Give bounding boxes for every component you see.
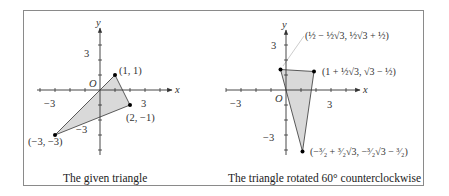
right-plot: y x O 3 −3 −3 3 (½ − ½√3, ½√3 + ½) (1 + …: [226, 19, 421, 185]
point-label-neg3-neg3: (−3, −3): [28, 136, 63, 148]
point-rotated-c: [301, 150, 305, 154]
y-tick-label-neg3: −3: [263, 132, 274, 143]
left-plot: y x O 3 −3 −3 3 (1, 1) (2, −1) (−3, −3) …: [28, 17, 180, 185]
y-tick-label-neg3: −3: [76, 124, 87, 135]
x-tick-label-neg3: −3: [44, 98, 55, 109]
x-axis-label: x: [362, 84, 368, 95]
point-rotated-a: [279, 68, 283, 72]
x-axis-label: x: [174, 84, 180, 95]
origin-label: O: [275, 93, 283, 104]
rotated-triangle: [281, 70, 315, 152]
point-label-2-neg1: (2, −1): [126, 112, 155, 124]
x-tick-label-neg3: −3: [230, 98, 241, 109]
point-rotated-b: [312, 70, 316, 74]
point-2-neg1: [128, 103, 132, 107]
left-caption: The given triangle: [63, 172, 147, 185]
x-tick-label-3: 3: [141, 98, 146, 109]
y-axis-label: y: [281, 19, 287, 30]
y-tick-label-3: 3: [84, 48, 89, 59]
point-1-1: [113, 73, 117, 77]
point-label-rotated-a: (½ − ½√3, ½√3 + ½): [305, 30, 389, 42]
y-axis-label: y: [95, 17, 101, 28]
right-caption: The triangle rotated 60° counterclockwis…: [228, 172, 421, 185]
point-label-rotated-b: (1 + ½√3, √3 − ½): [322, 66, 396, 78]
origin-label: O: [89, 78, 97, 89]
y-tick-label-3: 3: [271, 40, 276, 51]
point-label-rotated-c: (−³⁄₂ + ³⁄₂√3, −³⁄₂√3 − ³⁄₂): [310, 146, 408, 158]
x-tick-label-3: 3: [327, 99, 332, 110]
point-label-1-1: (1, 1): [119, 65, 142, 77]
figure-canvas: y x O 3 −3 −3 3 (1, 1) (2, −1) (−3, −3) …: [0, 0, 449, 196]
